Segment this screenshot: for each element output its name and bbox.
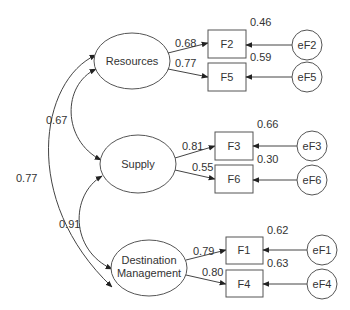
covariance-label-resources-supply: 0.67 xyxy=(46,114,67,126)
svg-text:eF3: eF3 xyxy=(303,140,322,152)
r2-label-f6: 0.30 xyxy=(257,153,278,165)
svg-text:eF1: eF1 xyxy=(313,244,332,256)
loading-dm-f4: 0.80 xyxy=(186,266,226,284)
latent-label-resources: Resources xyxy=(106,55,159,67)
loading-label-f5: 0.77 xyxy=(175,57,196,69)
covariance-resources-supply: 0.67 xyxy=(46,69,101,160)
latent-destination-management: Destination Management xyxy=(111,240,187,296)
r2-label-f4: 0.63 xyxy=(267,257,288,269)
latent-supply: Supply xyxy=(100,135,176,193)
loading-supply-f6: 0.55 xyxy=(175,161,215,179)
r2-label-f3: 0.66 xyxy=(257,118,278,130)
loading-label-f1: 0.79 xyxy=(193,245,214,257)
svg-text:F2: F2 xyxy=(221,38,234,50)
loading-label-f2: 0.68 xyxy=(175,37,196,49)
loading-label-f4: 0.80 xyxy=(202,266,223,278)
observed-f2: F2 xyxy=(208,30,246,58)
svg-text:eF5: eF5 xyxy=(298,71,317,83)
latent-label-dm-line2: Management xyxy=(117,267,181,279)
loading-dm-f1: 0.79 xyxy=(186,245,226,260)
r2-label-f5: 0.59 xyxy=(250,51,271,63)
covariance-resources-dm: 0.77 xyxy=(16,55,112,287)
latent-label-supply: Supply xyxy=(121,158,155,170)
loading-label-f3: 0.81 xyxy=(182,140,203,152)
svg-text:eF4: eF4 xyxy=(313,278,332,290)
error-ef6: eF6 xyxy=(253,165,327,195)
r2-label-f2: 0.46 xyxy=(250,16,271,28)
observed-f6: F6 xyxy=(215,165,253,193)
covariance-label-supply-dm: 0.91 xyxy=(59,218,80,230)
r2-label-f1: 0.62 xyxy=(267,224,288,236)
observed-f4: F4 xyxy=(226,270,263,297)
covariance-label-resources-dm: 0.77 xyxy=(16,172,37,184)
observed-f1: F1 xyxy=(226,237,263,264)
sem-path-diagram: 0.77 0.67 0.91 Resources Supply Destinat… xyxy=(0,0,350,310)
loading-resources-f5: 0.77 xyxy=(168,57,208,77)
loading-supply-f3: 0.81 xyxy=(175,140,215,158)
svg-text:eF6: eF6 xyxy=(303,174,322,186)
latent-resources: Resources xyxy=(94,33,170,89)
svg-text:F3: F3 xyxy=(228,140,241,152)
observed-f3: F3 xyxy=(215,132,253,160)
observed-f5: F5 xyxy=(208,63,246,91)
latent-label-dm-line1: Destination xyxy=(121,254,176,266)
covariance-supply-dm: 0.91 xyxy=(59,176,112,269)
svg-text:F1: F1 xyxy=(238,244,251,256)
error-ef4: eF4 xyxy=(263,269,337,299)
loading-label-f6: 0.55 xyxy=(192,161,213,173)
svg-text:F6: F6 xyxy=(228,173,241,185)
svg-text:F5: F5 xyxy=(221,71,234,83)
loading-resources-f2: 0.68 xyxy=(168,37,208,53)
svg-text:eF2: eF2 xyxy=(298,39,317,51)
svg-text:F4: F4 xyxy=(238,278,251,290)
error-ef5: eF5 xyxy=(246,62,322,92)
